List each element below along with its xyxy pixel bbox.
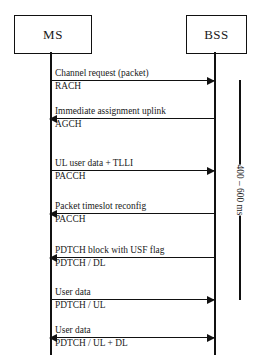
sequence-diagram: MS BSS Channel request (packet) RACH Imm… — [0, 0, 268, 364]
message-7-label: User data — [55, 326, 91, 335]
message-3-label: UL user data + TLLI — [55, 159, 133, 168]
lifeline-ms — [50, 52, 52, 355]
message-5-channel: PDTCH / DL — [55, 259, 106, 268]
timing-annotation: 400 – 600 ms — [233, 80, 247, 300]
message-3-channel: PACCH — [55, 172, 85, 181]
node-bss: BSS — [186, 15, 247, 54]
arrowhead-right-icon — [207, 77, 215, 85]
lifeline-bss — [214, 52, 216, 355]
arrowhead-right-icon — [207, 296, 215, 304]
message-5-label: PDTCH block with USF flag — [55, 246, 164, 255]
message-1-label: Channel request (packet) — [55, 69, 149, 78]
message-2-channel: AGCH — [55, 120, 82, 129]
message-7-channel: PDTCH / UL + DL — [55, 339, 128, 348]
message-1-channel: RACH — [55, 82, 81, 91]
node-bss-label: BSS — [204, 27, 229, 43]
message-4-channel: PACCH — [55, 215, 85, 224]
arrowhead-right-icon — [207, 334, 215, 342]
message-6-channel: PDTCH / UL — [55, 301, 106, 310]
message-6-label: User data — [55, 288, 91, 297]
timing-label: 400 – 600 ms — [233, 165, 247, 216]
node-ms: MS — [14, 15, 92, 54]
message-4-label: Packet timeslot reconfig — [55, 202, 146, 211]
arrowhead-right-icon — [207, 167, 215, 175]
node-ms-label: MS — [43, 27, 63, 43]
message-2-label: Immediate assignment uplink — [55, 107, 166, 116]
